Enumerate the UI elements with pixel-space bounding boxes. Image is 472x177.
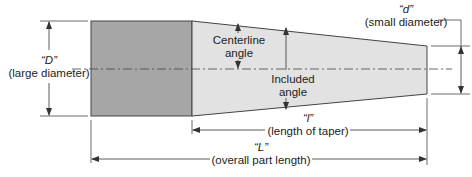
large-diameter-symbol: “D”	[8, 54, 90, 67]
small-diameter-desc: (small diameter)	[356, 16, 456, 29]
taper-length-desc: (length of taper)	[262, 125, 354, 138]
small-diameter-label: “d” (small diameter)	[356, 3, 456, 29]
large-diameter-label: “D” (large diameter)	[8, 54, 90, 80]
included-angle-line2: angle	[262, 86, 324, 99]
overall-length-label: “L” (overall part length)	[208, 141, 314, 167]
included-angle-line1: Included	[262, 73, 324, 86]
included-angle-label: Included angle	[262, 73, 324, 99]
large-diameter-desc: (large diameter)	[8, 67, 90, 80]
cylinder-section	[91, 21, 192, 116]
centerline-angle-line2: angle	[208, 47, 270, 60]
taper-length-symbol: “l”	[262, 112, 354, 125]
centerline-angle-line1: Centerline	[208, 34, 270, 47]
overall-length-symbol: “L”	[208, 141, 314, 154]
small-diameter-symbol: “d”	[356, 3, 456, 16]
overall-length-desc: (overall part length)	[208, 154, 314, 167]
centerline-angle-label: Centerline angle	[208, 34, 270, 60]
taper-length-label: “l” (length of taper)	[262, 112, 354, 138]
